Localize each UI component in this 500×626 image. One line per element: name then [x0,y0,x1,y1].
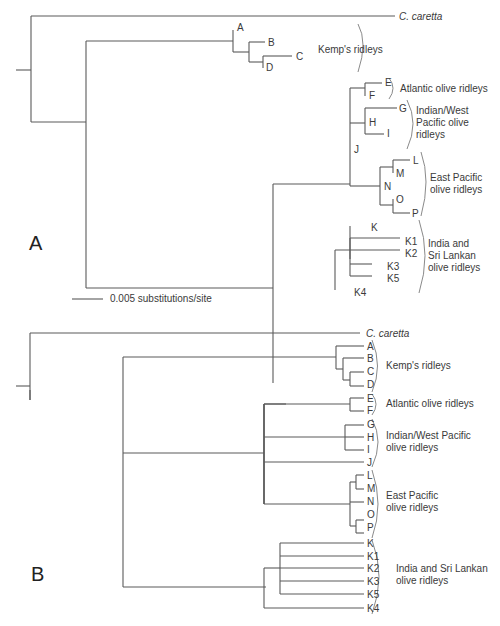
panel-label-a: A [29,232,42,255]
tip-a-O: O [396,194,404,205]
tip-a-F: F [369,90,375,101]
tip-b-P: P [367,522,374,533]
tip-b-L: L [367,470,373,481]
tip-b-O: O [367,509,375,520]
tip-a-K2: K2 [405,248,417,259]
group-label-atlantic-a: Atlantic olive ridleys [400,83,488,95]
group-label-east-pacific-b: East Pacific olive ridleys [386,490,438,514]
tip-b-A: A [367,341,374,352]
tip-b-C: C [367,366,374,377]
tip-a-C: C [296,51,303,62]
tip-a-K3: K3 [387,261,399,272]
group-label-indian-b: Indian/West Pacific olive ridleys [386,430,471,454]
group-label-indian-a: Indian/West Pacific olive ridleys [416,105,469,141]
tip-a-K5: K5 [387,273,399,284]
tip-b-H: H [367,432,374,443]
outgroup-label-a: C. caretta [399,11,442,22]
tip-a-K1: K1 [405,236,417,247]
group-label-india-srilanka-b: India and Sri Lankan olive ridleys [396,563,488,587]
tip-a-J: J [354,144,359,155]
tip-a-P: P [412,208,419,219]
scale-bar-label: 0.005 substitutions/site [110,293,212,304]
group-label-kemps-a: Kemp's ridleys [318,44,383,56]
tip-b-K5: K5 [367,589,379,600]
tip-b-I: I [367,444,370,455]
tip-b-K3: K3 [367,576,379,587]
tip-b-E: E [367,393,374,404]
tip-b-K: K [367,538,374,549]
tip-b-K1: K1 [367,551,379,562]
tip-b-F: F [367,405,373,416]
tip-a-N: N [384,181,391,192]
tip-b-K2: K2 [367,563,379,574]
tip-a-L: L [413,155,419,166]
tip-b-J: J [367,457,372,468]
tip-a-I: I [387,128,390,139]
tip-a-B: B [268,37,275,48]
tip-a-E: E [385,77,392,88]
outgroup-label-b: C. caretta [366,328,409,339]
tip-b-K4: K4 [367,603,379,614]
group-label-india-srilanka-a: India and Sri Lankan olive ridleys [428,238,480,274]
tip-b-B: B [367,353,374,364]
tip-a-D: D [266,62,273,73]
group-label-east-pacific-a: East Pacific olive ridleys [430,172,482,196]
group-label-kemps-b: Kemp's ridleys [386,360,451,372]
tip-a-M: M [396,168,404,179]
tip-b-N: N [367,496,374,507]
tip-b-M: M [367,483,375,494]
tip-a-A: A [237,22,244,33]
group-label-atlantic-b: Atlantic olive ridleys [386,398,474,410]
tip-a-K4: K4 [354,287,366,298]
tip-b-G: G [367,419,375,430]
tip-b-D: D [367,379,374,390]
tip-a-G: G [399,103,407,114]
panel-label-b: B [31,563,44,586]
tip-a-K: K [371,222,378,233]
tip-a-H: H [369,117,376,128]
